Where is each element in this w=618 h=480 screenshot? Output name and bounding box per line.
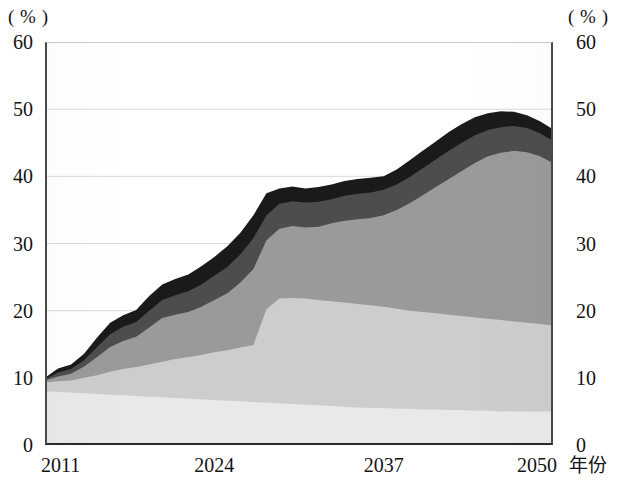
area-plot-svg: [45, 42, 553, 445]
y-tick-label: 50: [13, 99, 33, 119]
y-tick-label: 40: [576, 166, 596, 186]
y-tick-label: 60: [576, 32, 596, 52]
y-tick-label: 0: [23, 435, 33, 455]
x-tick-label: 2024: [194, 454, 234, 476]
x-tick-label: 2011: [41, 454, 80, 476]
y-tick-label: 60: [13, 32, 33, 52]
plot-area: [45, 42, 553, 445]
left-y-axis-ticks: 6050403020100: [0, 0, 40, 480]
right-y-axis-ticks: 6050403020100: [570, 0, 610, 480]
y-tick-label: 0: [576, 435, 586, 455]
y-tick-label: 20: [13, 301, 33, 321]
y-tick-label: 40: [13, 166, 33, 186]
x-tick-label: 2050: [517, 454, 557, 476]
y-tick-label: 10: [576, 368, 596, 388]
y-tick-label: 30: [576, 234, 596, 254]
y-tick-label: 30: [13, 234, 33, 254]
x-tick-label: 2037: [364, 454, 404, 476]
y-tick-label: 50: [576, 99, 596, 119]
y-tick-label: 20: [576, 301, 596, 321]
y-tick-label: 10: [13, 368, 33, 388]
x-axis-title: 年份: [569, 454, 607, 476]
stacked-area-chart: ( % ) ( % ) 6050403020100 6050403020100 …: [0, 0, 618, 480]
